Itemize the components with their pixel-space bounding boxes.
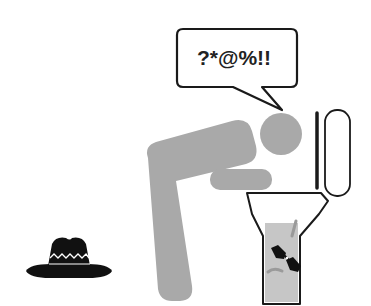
toilet-tank-icon xyxy=(317,110,350,196)
toilet-bowl-icon xyxy=(247,193,328,304)
illustration-canvas: ?*@%!! xyxy=(0,0,371,306)
hat-icon xyxy=(26,238,112,278)
speech-bubble-text: ?*@%!! xyxy=(183,46,285,70)
